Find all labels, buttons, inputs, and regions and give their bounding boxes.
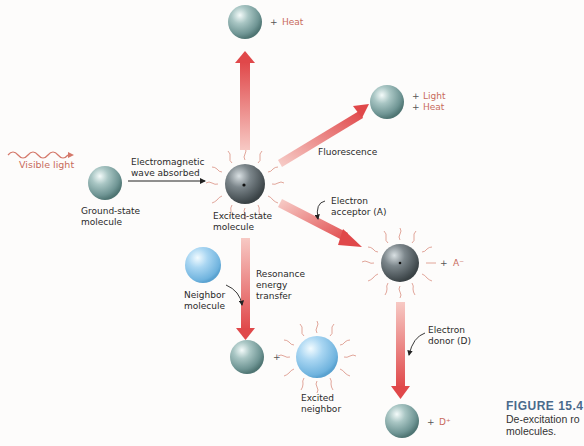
heat-label-top: Heat [282, 17, 303, 28]
heat-arrow-head [235, 51, 255, 63]
electron-donor-arrow-shaft [396, 302, 405, 388]
heat-arrow-shaft [240, 62, 250, 150]
heat-label-right: Heat [423, 102, 444, 113]
excited-state-label-line2: molecule [213, 222, 254, 233]
plus-sign-a-minus: + [440, 258, 448, 268]
figure-number: FIGURE 15.4 [506, 399, 584, 413]
electron-donor-pointer [409, 333, 425, 355]
neighbor-molecule-label-line2: molecule [184, 301, 225, 312]
em-absorbed-label-line2: wave absorbed [131, 168, 200, 179]
resonance-arrow-shaft [241, 238, 250, 330]
electron-acceptor-pointer [317, 201, 325, 219]
oxidized-electron-dot [399, 262, 402, 265]
ground-state-label-line2: molecule [81, 217, 122, 228]
em-absorbed-label-line1: Electromagnetic [131, 157, 204, 168]
resonance-arrow-head [236, 328, 255, 340]
plus-sign-light: + [412, 91, 420, 101]
electron-donor-arrow-head [391, 386, 410, 399]
plus-sign-heat-right: + [412, 102, 420, 112]
plus-sign-heat: + [270, 17, 278, 27]
neighbor-molecule [185, 247, 221, 283]
electron-acceptor-label-line2: acceptor (A) [331, 207, 386, 218]
reduced-product-molecule [385, 404, 419, 438]
resonance-label-line3: transfer [256, 291, 292, 302]
excited-neighbor-label-line1: Excited [301, 393, 334, 404]
figure-caption-line1: De-excitation ro [506, 413, 580, 425]
visible-light-label: Visible light [19, 159, 74, 170]
plus-sign-d-plus: + [427, 417, 435, 427]
deexcited-molecule [230, 340, 264, 374]
ground-state-molecule [88, 166, 122, 200]
plus-sign-neighbor: + [273, 352, 281, 362]
ground-state-label-line1: Ground-state [81, 206, 140, 217]
neighbor-pointer [226, 285, 242, 305]
resonance-label-line1: Resonance [256, 269, 305, 280]
neighbor-molecule-label-line1: Neighbor [184, 290, 225, 301]
fluorescence-label: Fluorescence [318, 147, 377, 158]
electron-donor-label-line2: donor (D) [428, 336, 471, 347]
top-product-molecule [228, 5, 262, 39]
excited-neighbor-molecule [296, 336, 338, 378]
excited-state-electron-dot [242, 183, 245, 186]
d-plus-label: D⁺ [439, 417, 451, 428]
light-label: Light [423, 91, 445, 102]
resonance-label-line2: energy [256, 280, 287, 291]
wave-arrowhead-icon [68, 152, 74, 158]
electron-donor-label-line1: Electron [428, 325, 465, 336]
figure-caption: De-excitation ro molecules. [506, 413, 580, 437]
figure-caption-line2: molecules. [506, 425, 580, 437]
excited-neighbor-label-line2: neighbor [301, 404, 341, 415]
fluorescence-product-molecule [370, 85, 404, 119]
excited-state-label-line1: Excited-state [213, 211, 272, 222]
a-minus-label: A⁻ [453, 258, 464, 269]
electron-acceptor-label-line1: Electron [331, 196, 368, 207]
fluorescence-arrow [278, 111, 363, 167]
visible-light-wave-icon [8, 152, 68, 158]
